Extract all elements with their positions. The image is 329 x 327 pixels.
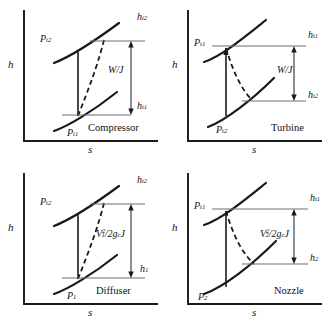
compressor-plot	[0, 0, 165, 164]
pressure-line-lower	[208, 78, 274, 127]
enthalpy-label-lower: h1	[140, 263, 148, 274]
nozzle-plot	[164, 163, 329, 327]
pressure-label-upper: Pt1	[194, 200, 205, 211]
energy-arrow-head-up	[291, 209, 296, 216]
panel-diffuser: h s Pt2 P1 ht2 h1 V21/2gcJ Diffuser	[0, 163, 165, 327]
axis-lines	[24, 173, 158, 304]
y-axis-label: h	[172, 58, 178, 70]
x-axis-label: s	[252, 306, 256, 318]
pressure-line-upper	[204, 20, 266, 62]
energy-arrow-head-down	[291, 258, 296, 265]
energy-arrow-head-up	[128, 204, 133, 211]
panel-title-nozzle: Nozzle	[274, 285, 304, 296]
energy-label: W/J	[277, 64, 293, 75]
energy-label: V21/2gcJ	[96, 227, 125, 239]
enthalpy-label-upper: ht1	[308, 29, 318, 40]
diffuser-plot	[0, 163, 165, 327]
panel-turbine: h s Pt1 Pt2 ht1 ht2 W/J Turbine	[164, 0, 329, 164]
pressure-label-lower: P1	[67, 290, 76, 301]
pressure-label-upper: Pt1	[194, 37, 205, 48]
pressure-line-lower	[204, 241, 276, 294]
enthalpy-label-lower: h2	[310, 252, 318, 263]
pressure-label-upper: Pt2	[40, 196, 51, 207]
panel-nozzle: h s Pt1 P2 ht1 h2 V22/2gcJ Nozzle	[164, 163, 329, 327]
enthalpy-label-lower: ht1	[137, 100, 147, 111]
energy-arrow-head-up	[128, 41, 133, 48]
x-axis-label: s	[88, 143, 92, 155]
enthalpy-label-upper: ht2	[137, 11, 147, 22]
panel-title-turbine: Turbine	[271, 122, 304, 133]
pressure-line-upper	[54, 186, 119, 226]
energy-label: V22/2gcJ	[260, 227, 289, 239]
enthalpy-label-upper: ht1	[310, 192, 320, 203]
enthalpy-label-lower: ht2	[308, 89, 318, 100]
x-axis-label: s	[252, 143, 256, 155]
y-axis-label: h	[172, 221, 178, 233]
turbine-plot	[164, 0, 329, 164]
energy-arrow-head-up	[291, 46, 296, 53]
pressure-label-lower: P2	[198, 291, 207, 302]
pressure-label-lower: Pt2	[216, 124, 227, 135]
actual-process-dashed	[226, 211, 254, 264]
panel-title-compressor: Compressor	[88, 122, 139, 133]
energy-arrow-head-down	[128, 109, 133, 116]
pressure-label-lower: Pt1	[67, 127, 78, 138]
energy-arrow-head-down	[291, 95, 296, 102]
actual-process-dashed	[226, 48, 252, 100]
enthalpy-label-upper: ht2	[137, 174, 147, 185]
x-axis-label: s	[88, 306, 92, 318]
energy-label: W/J	[108, 64, 124, 75]
panel-title-diffuser: Diffuser	[96, 285, 131, 296]
pressure-line-upper	[54, 23, 119, 63]
pressure-label-upper: Pt2	[40, 33, 51, 44]
pressure-line-upper	[204, 183, 266, 225]
y-axis-label: h	[8, 221, 14, 233]
panel-compressor: h s Pt2 Pt1 ht2 ht1 W/J Compressor	[0, 0, 165, 164]
y-axis-label: h	[8, 58, 14, 70]
hs-diagram-figure: h s Pt2 Pt1 ht2 ht1 W/J Compressor	[0, 0, 329, 327]
energy-arrow-head-down	[128, 272, 133, 279]
